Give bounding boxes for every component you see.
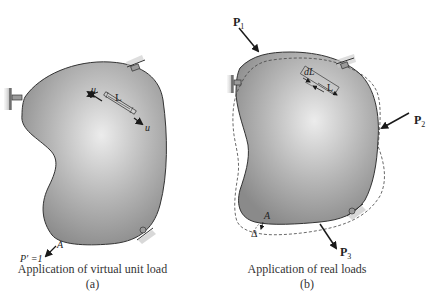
label-u-bottom-a: u xyxy=(145,122,150,133)
label-delta: Δ xyxy=(251,228,258,239)
label-point-A-a: A xyxy=(56,239,64,250)
load-P1-arrow xyxy=(239,28,258,51)
label-dL-b: dL xyxy=(304,66,315,77)
label-point-A-b: A xyxy=(263,210,271,221)
label-P2: P2 xyxy=(414,113,425,129)
load-P3-arrow xyxy=(320,224,336,248)
caption-b-sublabel: (b) xyxy=(237,277,377,292)
label-u-top-a: u xyxy=(91,84,96,95)
caption-a-text: Application of virtual unit load xyxy=(10,262,175,277)
caption-a: Application of virtual unit load (a) xyxy=(10,262,175,292)
caption-b-text: Application of real loads xyxy=(237,262,377,277)
caption-a-sublabel: (a) xyxy=(10,277,175,292)
caption-b: Application of real loads (b) xyxy=(237,262,377,292)
support-top-right-b xyxy=(336,54,356,69)
label-L-b: L xyxy=(327,82,333,93)
support-left-a xyxy=(4,88,22,110)
unit-load-arrow xyxy=(46,246,56,256)
label-L-a: L xyxy=(115,91,122,103)
load-P2-arrow xyxy=(382,113,409,128)
panel-b: dL L P1 P2 P3 A Δ xyxy=(227,15,425,261)
diagram-canvas: u u L A P′ =1 xyxy=(0,0,435,306)
label-P3: P3 xyxy=(340,245,351,261)
panel-a: u u L A P′ =1 xyxy=(4,55,166,264)
label-P1: P1 xyxy=(233,15,244,31)
